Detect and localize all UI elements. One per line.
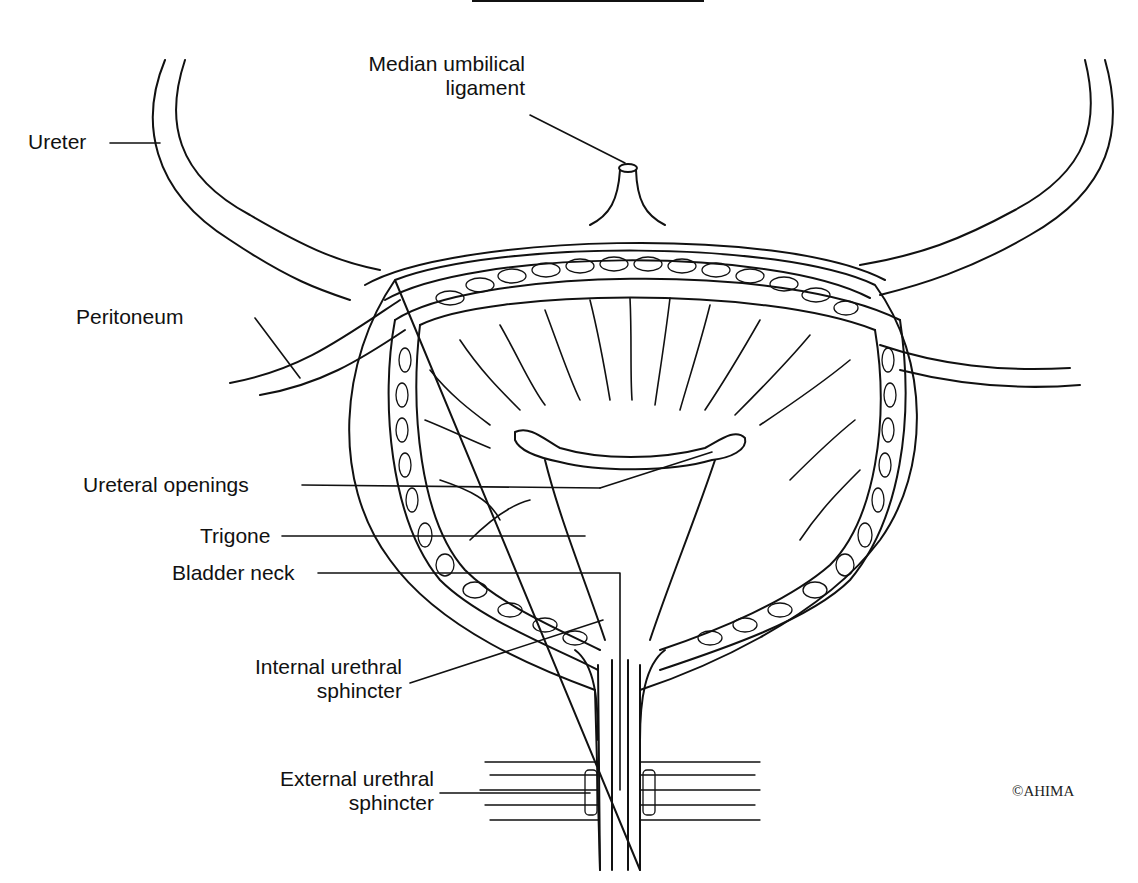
median-umbilical-ligament: [590, 164, 665, 225]
label-line: sphincter: [180, 679, 402, 703]
label-line: sphincter: [210, 791, 434, 815]
peritoneum: [230, 300, 1080, 395]
label-line: External urethral: [210, 767, 434, 791]
label-bladder-neck: Bladder neck: [172, 561, 295, 585]
bladder-outer-wall: [349, 251, 917, 870]
right-ureter: [860, 60, 1113, 295]
label-internal-urethral-sphincter: Internal urethral sphincter: [180, 655, 402, 703]
label-ureter: Ureter: [28, 130, 86, 154]
label-line: ligament: [305, 76, 525, 100]
bladder-illustration: [0, 0, 1138, 883]
label-median-umbilical-ligament: Median umbilical ligament: [305, 52, 525, 100]
label-peritoneum: Peritoneum: [76, 305, 183, 329]
label-trigone: Trigone: [200, 524, 270, 548]
detrusor-top: [395, 279, 900, 330]
label-line: Median umbilical: [305, 52, 525, 76]
interureteric-ridge: [515, 430, 745, 469]
label-ureteral-openings: Ureteral openings: [83, 473, 249, 497]
label-external-urethral-sphincter: External urethral sphincter: [210, 767, 434, 815]
label-line: Internal urethral: [180, 655, 402, 679]
rugae-folds: [425, 298, 860, 540]
bladder-diagram: Median umbilical ligament Ureter Periton…: [0, 0, 1138, 883]
copyright-notice: ©AHIMA: [1012, 783, 1074, 800]
detrusor-outer: [389, 320, 906, 670]
